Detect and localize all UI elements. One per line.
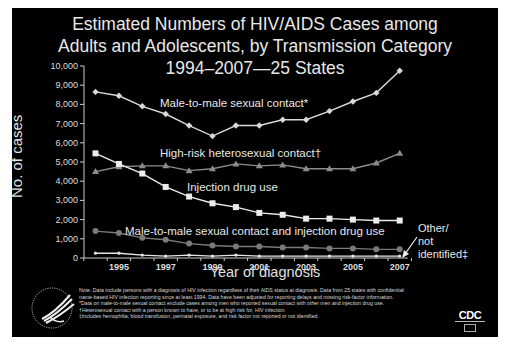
- arrow-head-icon: [402, 250, 409, 258]
- footnote-note-cont: name-based HIV infection reporting since…: [79, 294, 434, 301]
- diamond-marker: [350, 98, 356, 104]
- point-marker: [141, 254, 144, 257]
- footnote-dagger: †Heterosexual contact with a person know…: [79, 307, 434, 314]
- circle-marker: [93, 228, 99, 234]
- point-marker: [281, 254, 284, 257]
- cdc-logo-text: CDC: [455, 309, 485, 322]
- circle-marker: [186, 241, 192, 247]
- y-tick-label: 0: [73, 253, 78, 263]
- square-marker: [186, 194, 192, 200]
- circle-marker: [233, 243, 239, 249]
- x-axis-label: Year of diagnosis: [165, 264, 365, 280]
- point-marker: [164, 254, 167, 257]
- circle-marker: [397, 246, 403, 252]
- diamond-marker: [116, 93, 122, 99]
- point-marker: [258, 254, 261, 257]
- square-marker: [163, 184, 169, 190]
- square-marker: [397, 218, 403, 224]
- y-tick-label: 9,000: [55, 80, 78, 90]
- square-marker: [350, 217, 356, 223]
- square-marker: [116, 161, 122, 167]
- circle-marker: [373, 246, 379, 252]
- y-tick-label: 7,000: [55, 119, 78, 129]
- circle-marker: [303, 244, 309, 250]
- circle-marker: [163, 237, 169, 243]
- square-marker: [327, 216, 333, 222]
- footnote-note: Note. Data include persons with a diagno…: [79, 287, 434, 294]
- diamond-marker: [256, 122, 262, 128]
- square-marker: [233, 204, 239, 210]
- arrow-line: [405, 237, 417, 254]
- square-marker: [256, 210, 262, 216]
- point-marker: [188, 254, 191, 257]
- x-tick-label: 2007: [390, 262, 410, 272]
- y-tick-label: 3,000: [55, 195, 78, 205]
- y-tick-label: 8,000: [55, 99, 78, 109]
- y-tick-label: 5,000: [55, 157, 78, 167]
- point-marker: [211, 254, 214, 257]
- point-marker: [234, 254, 237, 257]
- point-marker: [375, 254, 378, 257]
- point-marker: [328, 254, 331, 257]
- x-tick-label: 1995: [109, 262, 129, 272]
- y-tick-label: 2,000: [55, 215, 78, 225]
- diamond-marker: [303, 117, 309, 123]
- square-marker: [139, 171, 145, 177]
- y-axis-label: No. of cases: [8, 115, 25, 198]
- circle-marker: [350, 245, 356, 251]
- diamond-marker: [186, 122, 192, 128]
- circle-marker: [256, 243, 262, 249]
- hhs-seal-icon: [464, 324, 476, 332]
- label-other: Other/: [418, 222, 450, 234]
- label-msm-idu: Male-to-male sexual contact and injectio…: [125, 225, 385, 237]
- y-tick-label: 1,000: [55, 234, 78, 244]
- label-injection-drug-use: Injection drug use: [187, 181, 278, 193]
- diamond-marker: [280, 117, 286, 123]
- diamond-marker: [209, 133, 215, 139]
- footnote-asterisk: *Data on male-to-male sexual contact exc…: [79, 300, 434, 307]
- circle-marker: [116, 230, 122, 236]
- point-marker: [94, 252, 97, 255]
- label-other: identified‡: [418, 248, 468, 260]
- cdc-logo: CDC: [455, 309, 485, 331]
- diamond-marker: [233, 122, 239, 128]
- point-marker: [305, 254, 308, 257]
- diamond-marker: [92, 89, 98, 95]
- footnote-double-dagger: ‡Includes hemophilia, blood transfusion,…: [79, 313, 434, 320]
- circle-marker: [280, 244, 286, 250]
- circle-marker: [210, 243, 216, 249]
- square-marker: [93, 150, 99, 156]
- square-marker: [280, 212, 286, 218]
- y-tick-label: 4,000: [55, 176, 78, 186]
- y-tick-label: 6,000: [55, 138, 78, 148]
- label-male-to-male: Male-to-male sexual contact*: [160, 97, 309, 109]
- triangle-marker: [396, 150, 403, 156]
- diamond-marker: [326, 108, 332, 114]
- footnotes: Note. Data include persons with a diagno…: [79, 287, 434, 320]
- square-marker: [210, 200, 216, 206]
- square-marker: [373, 218, 379, 224]
- diamond-marker: [139, 103, 145, 109]
- label-heterosexual: High-risk heterosexual contact†: [160, 147, 321, 159]
- y-tick-label: 10,000: [50, 61, 78, 71]
- circle-marker: [327, 245, 333, 251]
- hhs-eagle-icon: [28, 283, 80, 333]
- square-marker: [303, 216, 309, 222]
- point-marker: [351, 254, 354, 257]
- point-marker: [398, 254, 401, 257]
- diamond-marker: [163, 111, 169, 117]
- label-other: not: [418, 235, 433, 247]
- point-marker: [117, 252, 120, 255]
